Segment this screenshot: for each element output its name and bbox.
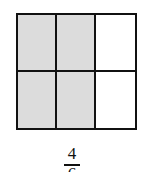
fraction-label: 4 6 bbox=[62, 146, 82, 172]
grid-cell-shaded bbox=[18, 15, 57, 72]
grid-cell-shaded bbox=[57, 15, 96, 72]
fraction-numerator: 4 bbox=[62, 146, 82, 162]
grid-cell-unshaded bbox=[96, 72, 135, 129]
grid-cell-shaded bbox=[18, 72, 57, 129]
grid-cell-shaded bbox=[57, 72, 96, 129]
fraction-denominator: 6 bbox=[62, 166, 82, 172]
grid-cell-unshaded bbox=[96, 15, 135, 72]
fraction-grid bbox=[16, 13, 137, 130]
